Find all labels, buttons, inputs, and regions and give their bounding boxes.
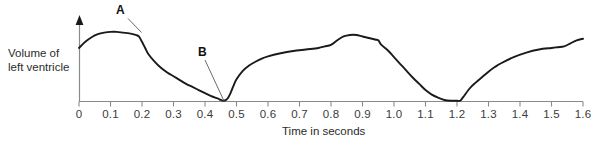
ventricle-volume-chart: Volume of left ventricle 00.10.20.30.40.…	[0, 0, 604, 141]
annotation-label-a: A	[116, 3, 125, 17]
annotation-leaders	[128, 19, 224, 102]
x-axis-tick-label: 0.6	[260, 108, 277, 120]
y-axis-arrow-icon	[76, 15, 84, 25]
x-axis-tick-label: 0.5	[228, 108, 245, 120]
x-axis-title: Time in seconds	[282, 125, 365, 137]
x-axis-tick-label: 1.4	[512, 108, 529, 120]
x-axis-tick-label: 1.1	[417, 108, 434, 120]
x-axis-tick-label: 1.0	[386, 108, 403, 120]
x-axis-tick-label: 0.7	[291, 108, 308, 120]
x-axis-tick-label: 1.3	[480, 108, 497, 120]
x-axis-tick-label: 0.8	[323, 108, 340, 120]
data-series-group	[79, 32, 583, 101]
x-axis-tick-label: 0.3	[165, 108, 182, 120]
x-axis-tick-label: 0.1	[102, 108, 119, 120]
volume-curve	[79, 32, 583, 101]
x-axis-tick-label: 0	[76, 108, 83, 120]
x-axis-tick-label: 1.5	[543, 108, 560, 120]
x-axis-tick-label: 0.2	[134, 108, 151, 120]
annotation-label-b: B	[198, 45, 207, 59]
x-axis-tick-label: 0.4	[197, 108, 214, 120]
label-a-leader-line	[128, 19, 142, 33]
x-axis-tick-label: 0.9	[354, 108, 371, 120]
x-axis-tick-label: 1.2	[449, 108, 466, 120]
x-axis-tick-label: 1.6	[575, 108, 592, 120]
x-axis-ticks	[79, 102, 583, 107]
